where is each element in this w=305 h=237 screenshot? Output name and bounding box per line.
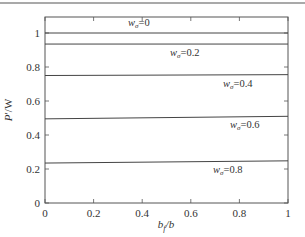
series-label: wσ=0.2 [170, 47, 200, 60]
series-label: wσ=0.6 [230, 119, 260, 132]
x-tick-label: 0.8 [233, 207, 247, 219]
series-line [45, 161, 288, 163]
series-label: wσ=0 [128, 17, 150, 30]
series-label: wσ=0.8 [213, 164, 243, 177]
y-tick-label: 0.4 [26, 129, 40, 141]
y-tick-label: 0 [35, 197, 41, 209]
series-labels: wσ=0wσ=0.2wσ=0.4wσ=0.6wσ=0.8 [128, 17, 260, 177]
series-lines [45, 33, 288, 163]
x-tick-label: 1 [285, 207, 291, 219]
y-tick-label: 0.6 [26, 95, 40, 107]
y-tick-label: 1 [35, 27, 41, 39]
series-label: wσ=0.4 [223, 78, 253, 91]
x-tick-label: 0 [42, 207, 48, 219]
x-tick-label: 0.6 [184, 207, 198, 219]
x-axis-label: bf/b [158, 218, 175, 233]
x-tick-label: 0.2 [87, 207, 101, 219]
series-line [45, 75, 288, 76]
x-tick-label: 0.4 [135, 207, 149, 219]
y-axis-label: P′/W [2, 98, 14, 122]
axis-ticks [45, 17, 288, 203]
y-tick-label: 0.8 [26, 61, 40, 73]
y-tick-label: 0.2 [26, 163, 40, 175]
plot-frame [45, 17, 288, 203]
chart: 00.20.40.60.8100.20.40.60.81 wσ=0wσ=0.2w… [0, 0, 305, 237]
